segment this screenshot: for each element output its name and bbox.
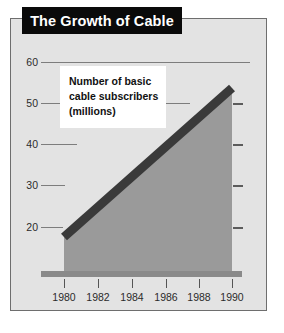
xtick-1986 <box>166 279 167 288</box>
xtick-label-1986: 1986 <box>149 291 183 303</box>
xtick-label-1988: 1988 <box>182 291 216 303</box>
series-area-cable-subscribers <box>0 0 284 333</box>
xtick-1988 <box>199 279 200 288</box>
chart-annotation: Number of basic cable subscribers (milli… <box>60 66 166 128</box>
annotation-line-1: Number of basic <box>69 74 166 89</box>
page-title: The Growth of Cable <box>30 13 174 29</box>
xtick-1982 <box>98 279 99 288</box>
annotation-line-2: cable subscribers <box>69 89 166 104</box>
chart-figure: The Growth of Cable 60 50 40 30 20 <box>0 0 284 333</box>
annotation-line-3: (millions) <box>69 104 166 119</box>
xtick-1984 <box>132 279 133 288</box>
xtick-label-1990: 1990 <box>215 291 249 303</box>
plot-area: 60 50 40 30 20 1980 1982 1984 1986 1988 … <box>0 0 284 333</box>
chart-title-banner: The Growth of Cable <box>22 7 182 34</box>
xtick-1990 <box>232 279 233 288</box>
xtick-1980 <box>64 279 65 288</box>
x-axis-bar <box>41 271 242 277</box>
xtick-label-1980: 1980 <box>47 291 81 303</box>
xtick-label-1984: 1984 <box>115 291 149 303</box>
xtick-label-1982: 1982 <box>81 291 115 303</box>
